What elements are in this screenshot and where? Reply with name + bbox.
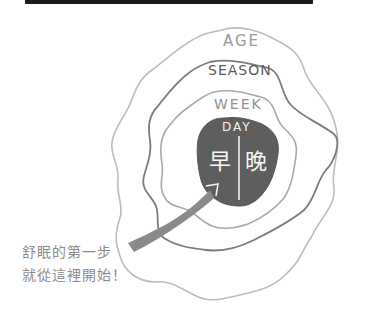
ring-label-week: WEEK xyxy=(214,96,263,112)
ring-label-season: SEASON xyxy=(208,62,272,78)
caption-line-2: 就從這裡開始！ xyxy=(22,264,127,287)
caption: 舒眠的第一步 就從這裡開始！ xyxy=(22,241,127,287)
caption-line-1: 舒眠的第一步 xyxy=(22,241,127,264)
ring-label-age: AGE xyxy=(223,32,260,50)
day-label-morning: 早 xyxy=(209,143,231,175)
day-label-evening: 晚 xyxy=(245,143,267,175)
ring-label-day: DAY xyxy=(222,120,252,134)
